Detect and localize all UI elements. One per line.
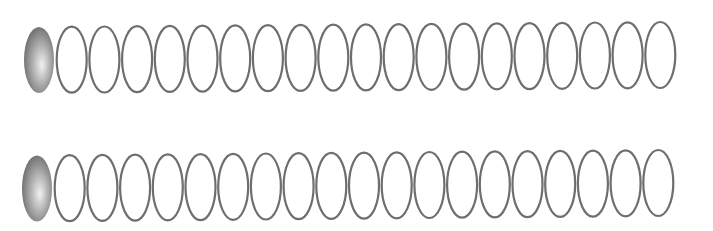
empty-oval xyxy=(580,23,610,89)
empty-oval xyxy=(449,24,479,90)
empty-oval xyxy=(382,152,412,218)
empty-oval xyxy=(447,152,477,218)
empty-oval xyxy=(120,155,150,221)
oval-row-1 xyxy=(24,22,675,93)
empty-oval xyxy=(414,152,444,218)
empty-oval xyxy=(645,22,675,88)
empty-oval xyxy=(351,24,381,90)
empty-oval xyxy=(186,154,216,220)
empty-oval xyxy=(55,155,85,221)
empty-oval xyxy=(155,26,185,92)
empty-oval xyxy=(349,153,379,219)
empty-oval xyxy=(416,24,446,90)
empty-oval xyxy=(89,27,119,93)
empty-oval xyxy=(122,26,152,92)
empty-oval xyxy=(613,22,643,88)
empty-oval xyxy=(87,155,117,221)
empty-oval xyxy=(153,154,183,220)
empty-oval xyxy=(643,150,673,216)
empty-oval xyxy=(316,153,346,219)
empty-oval xyxy=(284,153,314,219)
empty-oval xyxy=(578,151,608,217)
empty-oval xyxy=(545,151,575,217)
empty-oval xyxy=(547,23,577,89)
empty-oval xyxy=(515,23,545,89)
empty-oval xyxy=(251,154,281,220)
empty-oval xyxy=(286,25,316,91)
empty-oval xyxy=(220,25,250,91)
empty-oval xyxy=(188,26,218,92)
filled-oval xyxy=(24,27,54,93)
empty-oval xyxy=(480,151,510,217)
filled-oval xyxy=(22,156,52,222)
oval-row-2 xyxy=(22,150,673,222)
empty-oval xyxy=(57,27,87,93)
empty-oval xyxy=(318,25,348,91)
empty-oval xyxy=(611,150,641,216)
empty-oval xyxy=(253,25,283,91)
oval-diagram xyxy=(0,0,713,231)
empty-oval xyxy=(384,24,414,90)
empty-oval xyxy=(218,154,248,220)
empty-oval xyxy=(482,23,512,89)
empty-oval xyxy=(513,151,543,217)
